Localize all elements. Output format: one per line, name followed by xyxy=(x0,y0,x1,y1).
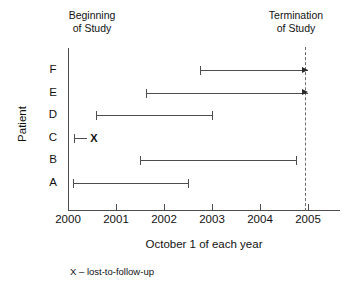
lost-to-follow-up-x-icon: X xyxy=(90,132,97,144)
x-axis-tick-label: 2004 xyxy=(238,213,282,225)
span-start-cap-b xyxy=(140,156,141,165)
x-axis-tick xyxy=(212,204,213,211)
beginning-of-study-line2: of Study xyxy=(32,22,152,35)
followup-span-b xyxy=(140,160,296,161)
termination-of-study-line1: Termination xyxy=(244,9,348,22)
x-axis-tick-label: 2005 xyxy=(286,213,330,225)
beginning-of-study-annotation: Beginning of Study xyxy=(32,9,152,34)
x-axis-tick xyxy=(68,204,69,211)
x-axis-tick-label: 2000 xyxy=(46,213,90,225)
span-start-cap-a xyxy=(73,179,74,188)
x-axis-line xyxy=(68,210,340,211)
beginning-of-study-line1: Beginning xyxy=(32,9,152,22)
x-axis-tick-label: 2001 xyxy=(94,213,138,225)
patient-label-b: B xyxy=(44,153,62,165)
arrow-right-icon-e xyxy=(302,89,308,95)
patient-label-c: C xyxy=(44,131,62,143)
termination-of-study-line2: of Study xyxy=(244,22,348,35)
followup-span-f xyxy=(200,70,308,71)
arrow-right-icon-f xyxy=(302,67,308,73)
span-start-cap-c xyxy=(74,134,75,143)
followup-span-a xyxy=(73,183,188,184)
y-axis-line xyxy=(68,48,69,210)
x-axis-tick xyxy=(116,204,117,211)
patient-followup-timeline-chart: Beginning of Study Termination of Study … xyxy=(0,0,350,292)
y-axis-title: Patient xyxy=(16,94,28,154)
lost-to-follow-up-footnote: X – lost-to-follow-up xyxy=(70,266,154,277)
x-axis-tick xyxy=(308,204,309,211)
patient-label-d: D xyxy=(44,108,62,120)
x-axis-tick xyxy=(260,204,261,211)
span-end-cap-b xyxy=(296,156,297,165)
x-axis-tick-label: 2003 xyxy=(190,213,234,225)
x-axis-title: October 1 of each year xyxy=(68,238,340,250)
patient-label-f: F xyxy=(44,63,62,75)
x-axis-tick-label: 2002 xyxy=(142,213,186,225)
span-start-cap-e xyxy=(146,89,147,98)
followup-span-c xyxy=(74,138,87,139)
patient-label-a: A xyxy=(44,176,62,188)
followup-span-d xyxy=(96,115,212,116)
span-start-cap-f xyxy=(200,66,201,75)
patient-label-e: E xyxy=(44,86,62,98)
followup-span-e xyxy=(146,93,308,94)
span-end-cap-a xyxy=(188,179,189,188)
termination-of-study-annotation: Termination of Study xyxy=(244,9,348,34)
span-end-cap-d xyxy=(212,111,213,120)
span-start-cap-d xyxy=(96,111,97,120)
x-axis-tick xyxy=(164,204,165,211)
